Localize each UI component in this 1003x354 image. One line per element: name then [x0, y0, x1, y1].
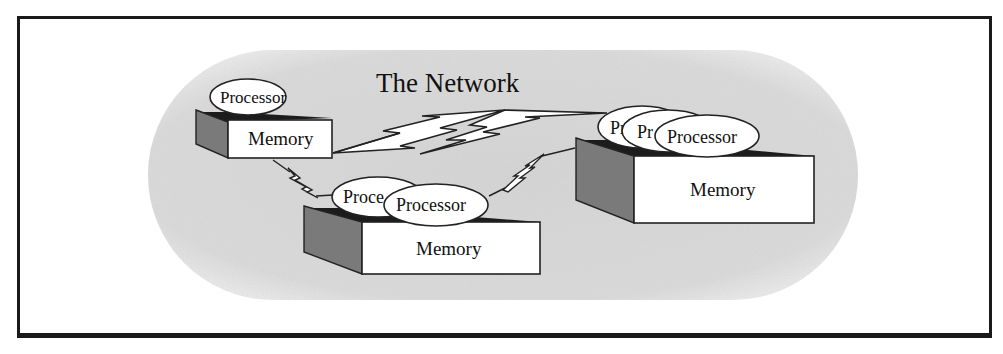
- processor-label-partial: Pr: [637, 122, 653, 142]
- processor-label-partial: Proce: [343, 187, 384, 207]
- processor-label: Processor: [220, 88, 286, 107]
- link-line: [316, 195, 333, 196]
- memory-label: Memory: [416, 238, 482, 259]
- diagram-title: The Network: [376, 68, 520, 98]
- memory-label: Memory: [248, 128, 314, 149]
- processor-label: Processor: [396, 195, 466, 215]
- memory-label: Memory: [690, 179, 756, 200]
- processor-label: Processor: [667, 127, 737, 147]
- network-diagram: The Network Memory Processor Memory Proc…: [0, 0, 1003, 354]
